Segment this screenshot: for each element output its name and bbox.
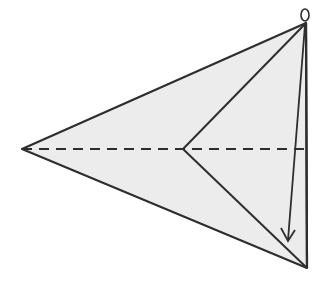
- paper-shape: [22, 23, 307, 268]
- right-edge: [306, 23, 307, 268]
- folding-diagram: [0, 0, 331, 295]
- hook-loop-icon: [301, 9, 309, 21]
